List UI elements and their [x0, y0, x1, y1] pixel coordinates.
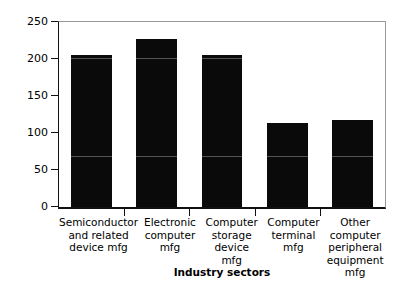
bar-slot	[124, 22, 189, 207]
x-tick-mark	[189, 209, 190, 216]
bar-chart-figure: $ thousands 050100150200250 Semiconducto…	[0, 0, 407, 287]
x-category-label-line: device	[202, 241, 262, 254]
x-category-label-line: mfg	[264, 241, 324, 254]
x-category-label-line: and related	[59, 229, 138, 242]
x-category-label-line: device mfg	[59, 241, 138, 254]
y-tick-label-wrap: 100	[4, 127, 48, 139]
y-tick-label: 0	[8, 201, 48, 212]
bar-series	[59, 22, 385, 207]
bar	[332, 120, 373, 207]
y-tick-label-wrap: 250	[4, 16, 48, 28]
x-category-label-line: storage	[202, 229, 262, 242]
x-category-label-line: Computer	[264, 216, 324, 229]
y-tick-label: 200	[8, 53, 48, 64]
bar	[136, 39, 177, 207]
bar	[267, 123, 308, 207]
y-tick-label: 50	[8, 164, 48, 175]
x-axis-title: Industry sectors	[58, 266, 386, 278]
plot-area	[58, 21, 386, 209]
bar-slot	[320, 22, 385, 207]
x-tick-mark	[320, 209, 321, 216]
y-tick-label-wrap: 200	[4, 53, 48, 65]
x-category-label-line: mfg	[140, 241, 200, 254]
x-category-label-line: Computer	[202, 216, 262, 229]
x-category-label-line: peripheral	[325, 241, 385, 254]
x-tick-mark	[124, 209, 125, 216]
bar-slot	[189, 22, 254, 207]
x-category-label-line: computer	[325, 229, 385, 242]
y-tick-label: 150	[8, 90, 48, 101]
y-tick-label: 100	[8, 127, 48, 138]
x-category-label-line: Electronic	[140, 216, 200, 229]
x-category-label-line: computer	[140, 229, 200, 242]
bar-slot	[59, 22, 124, 207]
y-tick-label-wrap: 150	[4, 90, 48, 102]
x-tick-mark	[255, 209, 256, 216]
bar-slot	[255, 22, 320, 207]
x-category-label-line: Other	[325, 216, 385, 229]
x-category-label-line: Semiconductor	[59, 216, 138, 229]
x-category-label-line: mfg	[202, 254, 262, 267]
x-category-label-line: terminal	[264, 229, 324, 242]
bar	[71, 55, 112, 207]
y-tick-label-wrap: 50	[4, 164, 48, 176]
bar	[202, 55, 243, 207]
y-tick-label: 250	[8, 16, 48, 27]
y-tick-label-wrap: 0	[4, 201, 48, 213]
